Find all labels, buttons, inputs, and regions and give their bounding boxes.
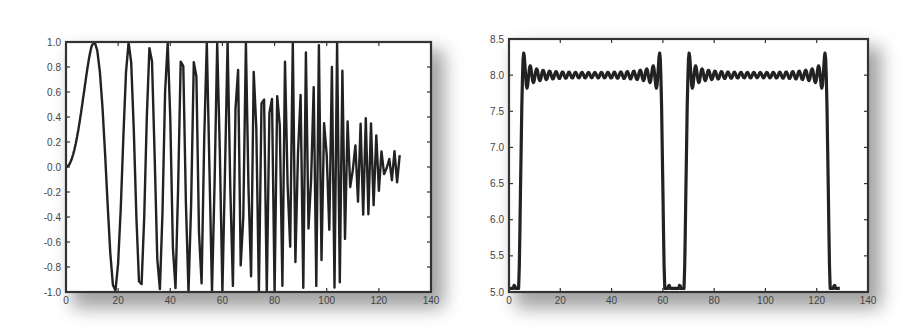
right-chart: 0204060801001201405.05.56.06.57.07.58.08… [0, 0, 923, 330]
x-tick-label: 0 [506, 295, 512, 306]
y-tick-label: 8.0 [490, 70, 504, 81]
y-tick-label: 7.5 [490, 106, 504, 117]
x-tick-label: 40 [606, 295, 618, 306]
y-tick-label: 8.5 [490, 34, 504, 45]
right-chart-plot: 0204060801001201405.05.56.06.57.07.58.08… [0, 0, 923, 330]
x-tick-label: 20 [555, 295, 567, 306]
x-tick-label: 60 [657, 295, 669, 306]
x-tick-label: 100 [757, 295, 774, 306]
y-tick-label: 5.5 [490, 250, 504, 261]
square-wave-line [509, 53, 840, 288]
y-tick-label: 6.5 [490, 178, 504, 189]
x-tick-label: 140 [860, 295, 877, 306]
y-tick-label: 5.0 [490, 287, 504, 298]
y-tick-label: 6.0 [490, 214, 504, 225]
x-tick-label: 80 [709, 295, 721, 306]
y-tick-label: 7.0 [490, 142, 504, 153]
x-tick-label: 120 [808, 295, 825, 306]
